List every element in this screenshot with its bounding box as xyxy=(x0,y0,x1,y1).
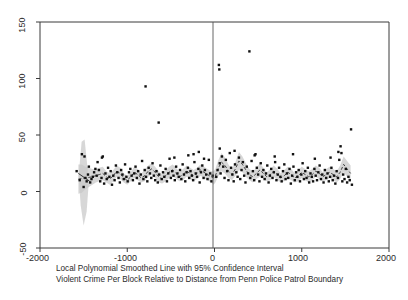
xtick-label-2000: 2000 xyxy=(376,253,396,263)
caption-line-1: Local Polynomial Smoothed Line with 95% … xyxy=(56,264,396,275)
caption-line-2: Violent Crime Per Block Relative to Dist… xyxy=(56,275,396,286)
plot-frame xyxy=(40,22,389,248)
ytick-label-50: 50 xyxy=(17,132,27,142)
chart-caption: Local Polynomial Smoothed Line with 95% … xyxy=(56,264,396,285)
ytick-label-150: 150 xyxy=(17,17,27,33)
xtick-label-1000: 1000 xyxy=(288,253,308,263)
axis-ticks xyxy=(36,22,389,252)
xtick-label-neg1000: -1000 xyxy=(114,253,137,263)
plot-canvas xyxy=(0,0,408,300)
xtick-label-neg2000: -2000 xyxy=(26,253,49,263)
chart-figure: 150 100 50 0 -50 -2000 -1000 0 1000 2000… xyxy=(0,0,408,300)
ytick-label-100: 100 xyxy=(17,73,27,89)
xtick-label-0: 0 xyxy=(210,253,215,263)
ytick-label-0: 0 xyxy=(19,190,29,195)
